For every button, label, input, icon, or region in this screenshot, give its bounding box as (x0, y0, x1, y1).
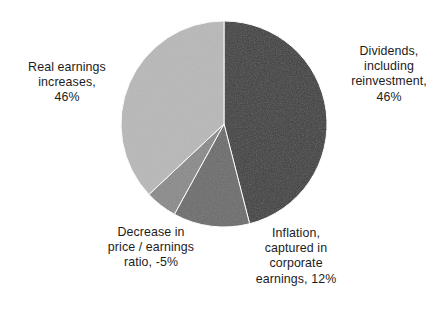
pie-label-pe-ratio: Decrease in price / earnings ratio, -5% (82, 225, 220, 271)
pie-label-dividends: Dividends, including reinvestment, 46% (331, 44, 447, 105)
pie-chart-figure: Dividends, including reinvestment, 46% R… (0, 0, 447, 321)
pie-label-real-earnings: Real earnings increases, 46% (6, 60, 128, 106)
pie-label-inflation: Inflation, captured in corporate earning… (226, 226, 366, 287)
